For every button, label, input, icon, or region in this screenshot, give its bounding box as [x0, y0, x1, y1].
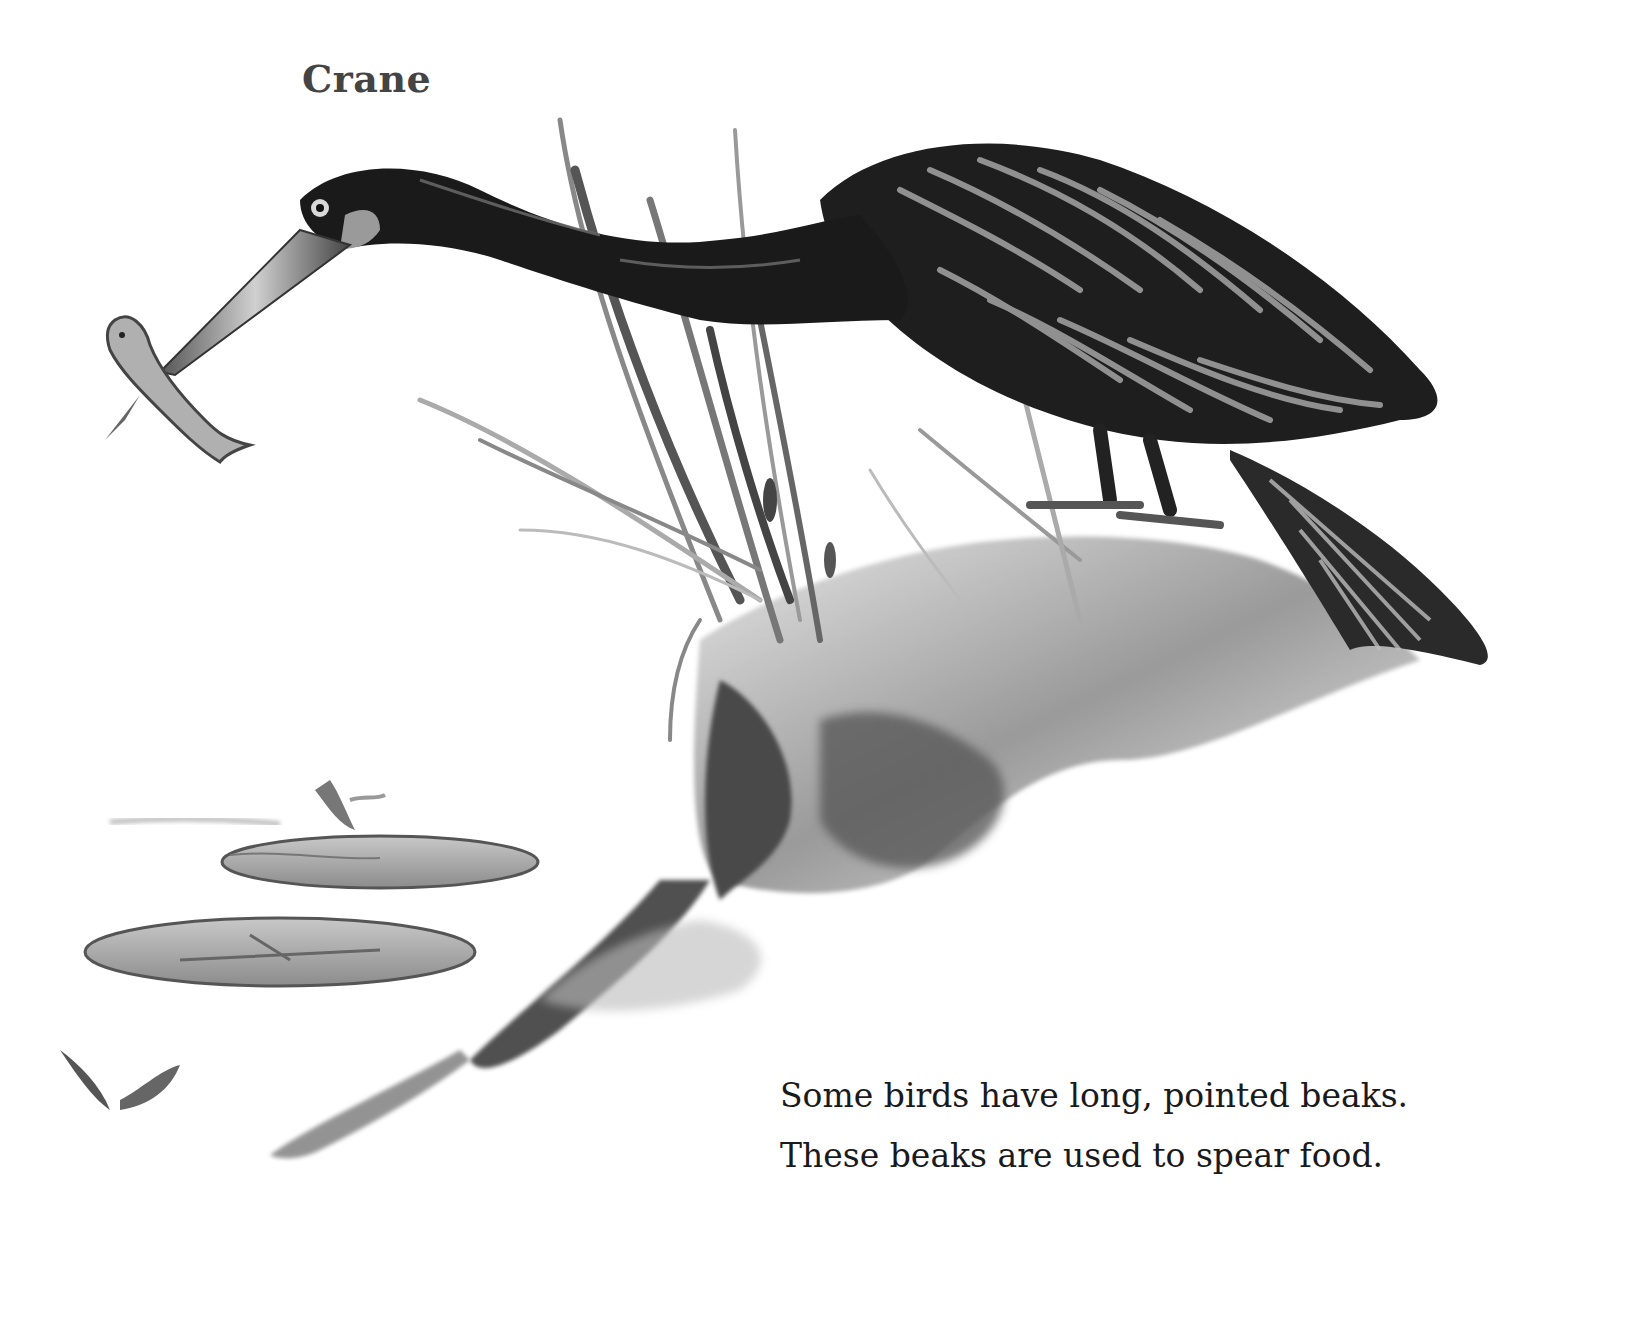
caption-line-2: These beaks are used to spear food. [780, 1126, 1408, 1186]
fish-icon [105, 317, 250, 462]
caption: Some birds have long, pointed beaks. The… [780, 1066, 1408, 1186]
book-page: Crane [0, 0, 1651, 1323]
caption-line-1: Some birds have long, pointed beaks. [780, 1066, 1408, 1126]
